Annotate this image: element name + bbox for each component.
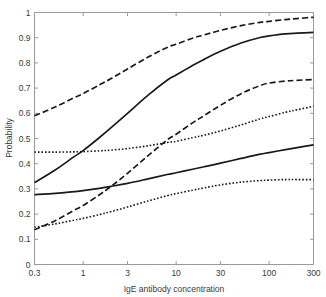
- curve-series-group: [35, 17, 314, 229]
- curve-middle-dotted: [35, 106, 314, 152]
- curve-upper-solid: [35, 32, 314, 182]
- x-axis-tick-labels: 0.3131030100300: [29, 268, 321, 278]
- y-tick-label: 0.4: [19, 159, 31, 169]
- y-tick-label: 0.6: [19, 108, 31, 118]
- y-axis-ticks: [35, 13, 314, 265]
- chart-figure: 0.3131030100300 00.10.20.30.40.50.60.70.…: [0, 0, 326, 297]
- axis-frame: [35, 13, 314, 265]
- curve-lower-solid: [35, 145, 314, 195]
- y-axis-title: Probability: [4, 117, 14, 157]
- x-tick-label: 30: [216, 268, 226, 278]
- x-axis-ticks: [35, 13, 314, 265]
- x-tick-label: 100: [262, 268, 276, 278]
- y-tick-label: 0.2: [19, 209, 31, 219]
- y-tick-label: 0: [26, 260, 31, 270]
- x-tick-label: 1: [81, 268, 86, 278]
- x-tick-label: 300: [306, 268, 320, 278]
- curve-lower-dotted: [35, 180, 314, 228]
- y-tick-label: 0.1: [19, 234, 31, 244]
- y-tick-label: 0.8: [19, 58, 31, 68]
- y-tick-label: 0.5: [19, 134, 31, 144]
- curve-upper-dashed: [35, 17, 314, 116]
- y-tick-label: 0.3: [19, 184, 31, 194]
- x-axis-title: IgE antibody concentration: [124, 284, 225, 294]
- x-tick-label: 10: [171, 268, 181, 278]
- y-tick-label: 0.9: [19, 33, 31, 43]
- y-axis-tick-labels: 00.10.20.30.40.50.60.70.80.91: [19, 8, 31, 270]
- x-tick-label: 3: [125, 268, 130, 278]
- y-tick-label: 1: [26, 8, 31, 18]
- y-tick-label: 0.7: [19, 83, 31, 93]
- probability-vs-ige-line-chart: 0.3131030100300 00.10.20.30.40.50.60.70.…: [0, 0, 326, 297]
